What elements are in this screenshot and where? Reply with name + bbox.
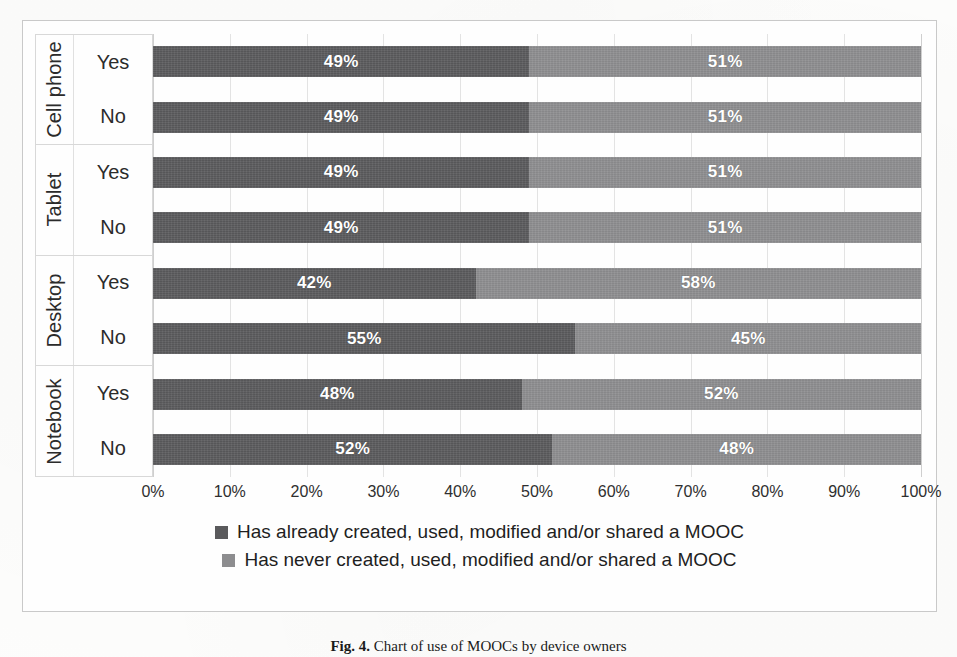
legend-label: Has already created, used, modified and/…	[237, 521, 744, 543]
bar-segment-series-1: 51%	[529, 157, 921, 188]
bar-value-label: 52%	[704, 384, 739, 404]
answer-label: No	[74, 421, 152, 476]
stacked-bar: 55%45%	[153, 323, 921, 354]
answer-label: Yes	[74, 256, 152, 311]
x-tick-label: 60%	[598, 483, 630, 501]
bar-row: 52%48%	[153, 422, 921, 477]
x-tick-label: 50%	[521, 483, 553, 501]
chart-legend: Has already created, used, modified and/…	[23, 521, 936, 571]
device-group-label: Cell phone	[36, 35, 74, 144]
gridline-100	[921, 34, 922, 477]
device-group-label: Tablet	[36, 145, 74, 255]
figure-caption-text: Chart of use of MOOCs by device owners	[374, 638, 627, 654]
answer-column: YesNo	[74, 35, 152, 144]
bar-segment-series-0: 49%	[153, 212, 529, 243]
bar-value-label: 52%	[335, 439, 370, 459]
device-group-label-text: Notebook	[43, 378, 66, 464]
bar-segment-series-1: 48%	[552, 434, 921, 465]
bar-segment-series-1: 52%	[522, 379, 921, 410]
bar-segment-series-0: 55%	[153, 323, 575, 354]
x-tick-label: 80%	[751, 483, 783, 501]
stacked-bar: 42%58%	[153, 268, 921, 299]
bar-segment-series-0: 49%	[153, 102, 529, 133]
bar-value-label: 51%	[708, 218, 743, 238]
answer-label: Yes	[74, 145, 152, 200]
bar-row: 49%51%	[153, 145, 921, 200]
bar-value-label: 48%	[719, 439, 754, 459]
bar-segment-series-0: 52%	[153, 434, 552, 465]
bar-segment-series-1: 58%	[476, 268, 921, 299]
bar-value-label: 51%	[708, 162, 743, 182]
x-tick-label: 70%	[675, 483, 707, 501]
stacked-bar: 49%51%	[153, 212, 921, 243]
bar-value-label: 55%	[347, 329, 382, 349]
answer-column: YesNo	[74, 256, 152, 366]
x-axis-tick-labels: 0%10%20%30%40%50%60%70%80%90%100%	[153, 483, 921, 509]
stacked-bar: 49%51%	[153, 157, 921, 188]
bar-value-label: 51%	[708, 107, 743, 127]
bar-segment-series-0: 42%	[153, 268, 476, 299]
answer-column: YesNo	[74, 366, 152, 476]
bar-value-label: 49%	[324, 218, 359, 238]
legend-item[interactable]: Has never created, used, modified and/or…	[222, 549, 736, 571]
bars-area: 49%51%49%51%49%51%49%51%42%58%55%45%48%5…	[153, 34, 921, 477]
bar-value-label: 49%	[324, 107, 359, 127]
stacked-bar: 48%52%	[153, 379, 921, 410]
x-tick-label: 40%	[444, 483, 476, 501]
bar-row: 49%51%	[153, 200, 921, 255]
bar-segment-series-0: 49%	[153, 46, 529, 77]
answer-label: No	[74, 89, 152, 143]
bar-segment-series-1: 45%	[575, 323, 921, 354]
device-group-desktop: DesktopYesNo	[35, 256, 153, 367]
bar-value-label: 49%	[324, 52, 359, 72]
device-group-notebook: NotebookYesNo	[35, 366, 153, 477]
x-tick-label: 30%	[367, 483, 399, 501]
bar-segment-series-1: 51%	[529, 46, 921, 77]
answer-label: No	[74, 200, 152, 255]
bar-row: 49%51%	[153, 89, 921, 144]
bar-segment-series-0: 49%	[153, 157, 529, 188]
stacked-bar: 52%48%	[153, 434, 921, 465]
bar-value-label: 49%	[324, 162, 359, 182]
figure-number: Fig. 4.	[330, 638, 370, 654]
bar-value-label: 58%	[681, 273, 716, 293]
answer-label: Yes	[74, 35, 152, 89]
legend-item[interactable]: Has already created, used, modified and/…	[215, 521, 744, 543]
stacked-bar: 49%51%	[153, 102, 921, 133]
device-group-label: Notebook	[36, 366, 74, 476]
bar-segment-series-1: 51%	[529, 102, 921, 133]
category-label-column: Cell phoneYesNoTabletYesNoDesktopYesNoNo…	[35, 34, 153, 477]
bar-segment-series-1: 51%	[529, 212, 921, 243]
x-tick-label: 100%	[901, 483, 942, 501]
answer-label: Yes	[74, 366, 152, 421]
legend-label: Has never created, used, modified and/or…	[244, 549, 736, 571]
bar-row: 49%51%	[153, 34, 921, 89]
legend-swatch-icon	[215, 526, 228, 539]
device-group-label-text: Cell phone	[43, 41, 66, 138]
device-group-tablet: TabletYesNo	[35, 145, 153, 256]
stacked-bar: 49%51%	[153, 46, 921, 77]
legend-swatch-icon	[222, 554, 235, 567]
x-tick-label: 20%	[291, 483, 323, 501]
bar-value-label: 42%	[297, 273, 332, 293]
bar-value-label: 48%	[320, 384, 355, 404]
device-group-label-text: Desktop	[43, 273, 66, 347]
answer-column: YesNo	[74, 145, 152, 255]
x-tick-label: 10%	[214, 483, 246, 501]
chart-frame: Cell phoneYesNoTabletYesNoDesktopYesNoNo…	[22, 20, 937, 612]
bar-row: 48%52%	[153, 366, 921, 421]
bar-value-label: 51%	[708, 52, 743, 72]
plot-area: Cell phoneYesNoTabletYesNoDesktopYesNoNo…	[23, 21, 936, 611]
x-tick-label: 90%	[828, 483, 860, 501]
figure-caption: Fig. 4. Chart of use of MOOCs by device …	[0, 638, 957, 655]
bar-segment-series-0: 48%	[153, 379, 522, 410]
bar-row: 55%45%	[153, 311, 921, 366]
device-group-label-text: Tablet	[43, 173, 66, 227]
x-tick-label: 0%	[141, 483, 164, 501]
bar-row: 42%58%	[153, 256, 921, 311]
answer-label: No	[74, 310, 152, 365]
bar-value-label: 45%	[731, 329, 766, 349]
device-group-cell-phone: Cell phoneYesNo	[35, 34, 153, 145]
device-group-label: Desktop	[36, 256, 74, 366]
